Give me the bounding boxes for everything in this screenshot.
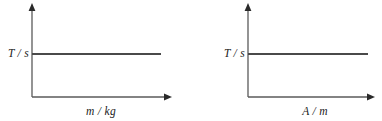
x-axis-arrow-icon-right bbox=[367, 94, 375, 101]
graph-period-vs-mass: T / s m / kg bbox=[0, 0, 191, 121]
y-axis-label-right: T / s bbox=[224, 47, 245, 59]
two-graph-figure: T / s m / kg T / s A / m bbox=[0, 0, 382, 121]
y-axis-label-left: T / s bbox=[8, 47, 29, 59]
x-axis-label-right: A / m bbox=[301, 105, 328, 117]
y-axis-arrow-icon-right bbox=[245, 3, 252, 11]
y-axis-arrow-icon-left bbox=[29, 3, 36, 11]
graph-period-vs-amplitude: T / s A / m bbox=[191, 0, 382, 121]
x-axis-label-left: m / kg bbox=[86, 105, 116, 118]
x-axis-arrow-icon-left bbox=[164, 94, 172, 101]
